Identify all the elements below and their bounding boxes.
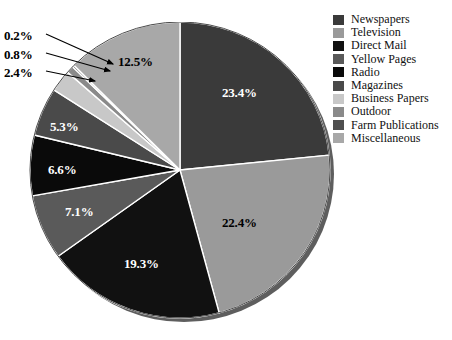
- legend-swatch-icon: [333, 94, 344, 104]
- legend-swatch-icon: [333, 28, 344, 38]
- legend-swatch-icon: [333, 41, 344, 51]
- slice-value-label: 6.6%: [48, 162, 76, 178]
- legend-item-label: Business Papers: [351, 92, 429, 105]
- callout-value-label: 0.2%: [4, 28, 32, 44]
- legend-item[interactable]: Business Papers: [333, 92, 451, 105]
- slice-value-label: 22.4%: [222, 215, 257, 231]
- legend-item[interactable]: Newspapers: [333, 13, 451, 26]
- legend-item-label: Radio: [351, 66, 380, 79]
- legend-item-label: Magazines: [351, 79, 403, 92]
- legend-item-label: Farm Publications: [351, 119, 439, 132]
- legend-item[interactable]: Miscellaneous: [333, 132, 451, 145]
- legend-item-label: Yellow Pages: [351, 53, 416, 66]
- legend-item-label: Outdoor: [351, 105, 391, 118]
- legend-swatch-icon: [333, 54, 344, 64]
- slice-value-label: 19.3%: [124, 256, 159, 272]
- slice-value-label: 12.5%: [118, 54, 153, 70]
- slice-value-label: 23.4%: [222, 85, 257, 101]
- legend-item[interactable]: Outdoor: [333, 105, 451, 118]
- legend-swatch-icon: [333, 107, 344, 117]
- legend-swatch-icon: [333, 81, 344, 91]
- callout-value-label: 0.8%: [4, 47, 32, 63]
- legend-item-label: Direct Mail: [351, 39, 407, 52]
- legend-item[interactable]: Radio: [333, 66, 451, 79]
- legend-swatch-icon: [333, 133, 344, 143]
- chart-title: [0, 0, 340, 3]
- slice-value-label: 7.1%: [65, 204, 93, 220]
- callout-value-label: 2.4%: [4, 65, 32, 81]
- legend-item-label: Newspapers: [351, 13, 410, 26]
- legend-item[interactable]: Yellow Pages: [333, 53, 451, 66]
- slice-value-label: 5.3%: [50, 119, 78, 135]
- legend-item[interactable]: Magazines: [333, 79, 451, 92]
- legend-item[interactable]: Television: [333, 26, 451, 39]
- legend-swatch-icon: [333, 67, 344, 77]
- legend-swatch-icon: [333, 15, 344, 25]
- legend-swatch-icon: [333, 120, 344, 130]
- chart-legend: NewspapersTelevisionDirect MailYellow Pa…: [333, 13, 451, 145]
- legend-item-label: Television: [351, 26, 401, 39]
- legend-item-label: Miscellaneous: [351, 132, 420, 145]
- legend-item[interactable]: Direct Mail: [333, 39, 451, 52]
- legend-item[interactable]: Farm Publications: [333, 119, 451, 132]
- chart-root: 23.4%22.4%19.3%7.1%6.6%5.3%12.5% 0.2%0.8…: [0, 0, 452, 340]
